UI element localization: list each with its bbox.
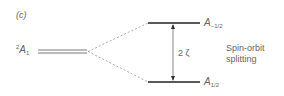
annotation-line-1: Spin-orbit <box>226 44 265 53</box>
lower-level-label: A1/2 <box>204 77 219 88</box>
gap-label: 2 ζ <box>178 49 189 58</box>
upper-level-label: A−1/2 <box>204 18 223 29</box>
annotation-line-2: splitting <box>226 55 257 64</box>
